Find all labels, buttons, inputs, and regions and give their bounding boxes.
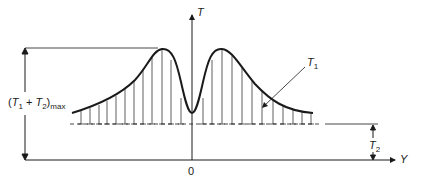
- diagram-canvas: [0, 0, 427, 181]
- origin-label: 0: [188, 166, 194, 177]
- t2-offset-label: T2: [369, 140, 380, 154]
- t1-label-symbol: T: [307, 56, 314, 68]
- plus-sign: +: [23, 96, 36, 108]
- t1-curve-label: T1: [307, 57, 318, 71]
- hatching-lines: [78, 49, 314, 124]
- t2-label-subscript: 2: [376, 145, 380, 154]
- t1-leader-line: [264, 67, 305, 106]
- t-axis-label: T: [197, 7, 204, 18]
- y-axis-label: Y: [400, 154, 407, 165]
- t1-label-subscript: 1: [314, 62, 318, 71]
- t2-label-symbol: T: [369, 139, 376, 151]
- max-dimension-label: (T1 + T2)max: [8, 97, 65, 111]
- max-subscript: max: [50, 102, 65, 111]
